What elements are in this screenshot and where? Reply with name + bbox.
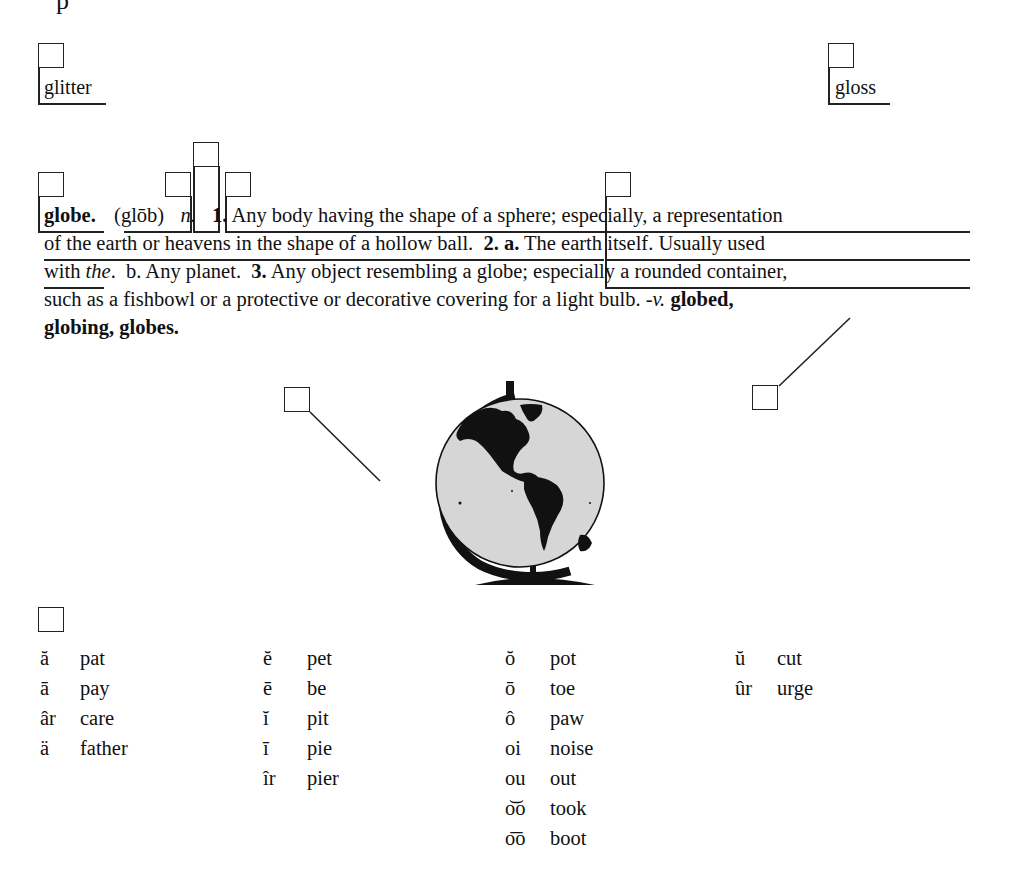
key-word: urge (777, 678, 813, 699)
key-symbol: ou (505, 768, 526, 789)
key-symbol: ă (40, 648, 49, 669)
key-word: pat (80, 648, 105, 669)
key-symbol: ō (505, 678, 515, 699)
key-symbol: ä (40, 738, 49, 759)
key-word: took (550, 798, 586, 819)
key-symbol: ô (505, 708, 515, 729)
key-symbol: oi (505, 738, 521, 759)
key-symbol: ē (263, 678, 272, 699)
key-symbol: ĭ (263, 708, 269, 729)
key-word: out (550, 768, 576, 789)
pronunciation-key-label-box[interactable] (38, 607, 64, 632)
key-word: pie (307, 738, 332, 759)
key-symbol: o͝o (505, 798, 526, 819)
key-word: cut (777, 648, 802, 669)
key-word: toe (550, 678, 575, 699)
key-symbol: âr (40, 708, 56, 729)
key-symbol: ŏ (505, 648, 515, 669)
key-word: be (307, 678, 326, 699)
key-symbol: îr (263, 768, 276, 789)
key-word: pit (307, 708, 329, 729)
key-symbol: ĕ (263, 648, 272, 669)
key-symbol: ī (263, 738, 269, 759)
key-symbol: ûr (735, 678, 752, 699)
key-word: pot (550, 648, 576, 669)
key-word: paw (550, 708, 584, 729)
key-word: father (80, 738, 128, 759)
key-word: boot (550, 828, 586, 849)
key-symbol: ŭ (735, 648, 745, 669)
key-word: pet (307, 648, 332, 669)
globe-illustration (420, 375, 620, 590)
key-word: noise (550, 738, 593, 759)
key-word: pier (307, 768, 339, 789)
key-word: pay (80, 678, 110, 699)
key-word: care (80, 708, 114, 729)
key-symbol: ā (40, 678, 49, 699)
key-symbol: o͞o (505, 828, 526, 849)
inflected-forms-label-box[interactable] (752, 385, 778, 410)
